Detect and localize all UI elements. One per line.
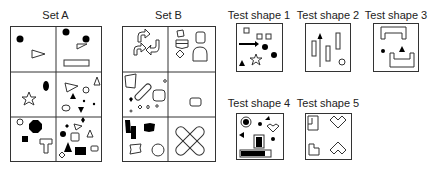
set-a-cell-1 — [17, 36, 46, 59]
set-a-cell-5 — [17, 119, 52, 153]
test-shape-5[interactable] — [306, 114, 352, 160]
set-a-cell-6 — [59, 117, 98, 158]
test-shape-2[interactable] — [306, 24, 351, 72]
set-b-cell-5 — [125, 120, 164, 156]
set-b-cell-2 — [176, 30, 207, 61]
set-b-cell-1 — [134, 29, 159, 55]
test-shape-4[interactable] — [237, 114, 284, 160]
set-b-cell-3 — [125, 74, 166, 112]
set-a-cell-3 — [22, 81, 49, 105]
set-b-cell-6 — [174, 125, 207, 158]
set-a-cell-2 — [63, 29, 90, 67]
test-shape-3[interactable] — [374, 24, 419, 72]
test-shape-1[interactable] — [237, 24, 283, 72]
set-b-cell-4 — [190, 98, 201, 106]
set-a-cell-4 — [62, 77, 100, 113]
bongard-problem-diagram — [0, 0, 431, 172]
